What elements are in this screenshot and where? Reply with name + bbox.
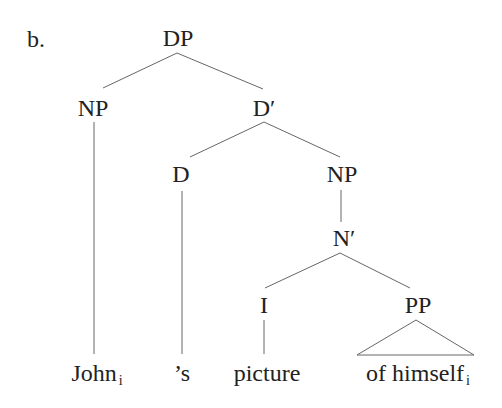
- node-np-comp: NP: [327, 162, 358, 186]
- node-d-bar: D′: [253, 96, 276, 120]
- branch-dbar-d: [190, 122, 264, 157]
- node-pp: PP: [405, 293, 432, 317]
- leaf-john-word: John: [71, 360, 116, 386]
- leaf-john-index: i: [119, 373, 123, 388]
- node-np-spec: NP: [78, 96, 109, 120]
- branch-dp-np: [103, 53, 177, 88]
- leaf-s: ’s: [174, 361, 190, 385]
- leaf-of-himself-index: i: [466, 373, 470, 388]
- example-label: b.: [27, 27, 45, 51]
- leaf-john: Johni: [71, 361, 122, 393]
- tree-branches: [0, 0, 502, 408]
- leaf-of-himself: of himselfi: [366, 361, 470, 393]
- node-n-bar: N′: [333, 226, 356, 250]
- leaf-of-himself-words: of himself: [366, 360, 464, 386]
- node-i: I: [260, 293, 268, 317]
- branch-nbar-pp: [340, 253, 410, 288]
- node-d: D: [172, 162, 189, 186]
- branch-dbar-np: [264, 122, 340, 157]
- branch-nbar-i: [265, 253, 340, 288]
- node-dp: DP: [163, 26, 194, 50]
- pp-triangle: [357, 320, 474, 355]
- leaf-picture: picture: [234, 361, 301, 385]
- branch-dp-dbar: [177, 53, 263, 89]
